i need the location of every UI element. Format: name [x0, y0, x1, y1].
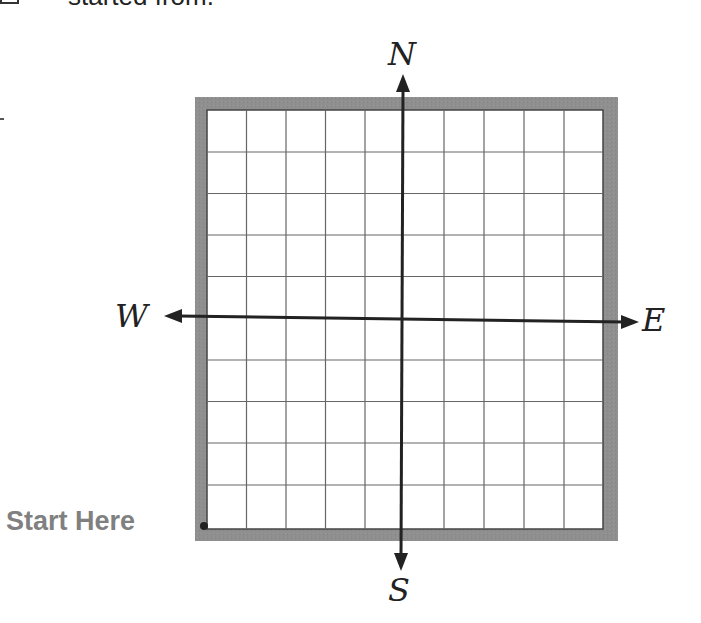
north-label: N: [388, 38, 416, 70]
west-label: W: [115, 300, 148, 332]
start-here-label: Start Here: [6, 506, 135, 537]
south-label: S: [388, 574, 410, 606]
start-point-dot: [200, 522, 208, 530]
west-arrow-icon: [164, 309, 182, 323]
east-arrow-icon: [621, 315, 639, 329]
north-arrow-icon: [396, 74, 410, 92]
east-label: E: [642, 304, 665, 336]
south-arrow-icon: [394, 553, 408, 571]
